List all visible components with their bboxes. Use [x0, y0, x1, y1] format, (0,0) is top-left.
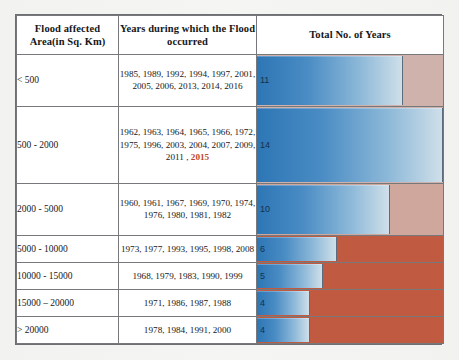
years-line: 2011 ,	[166, 152, 191, 162]
column-header-area-line2: Area(in Sq. Km)	[30, 36, 106, 47]
bar-value-label: 10	[260, 205, 270, 214]
cell-area: 500 - 2000	[17, 106, 119, 183]
column-header-area-line1: Flood affected	[35, 23, 100, 34]
years-line: 1962, 1963, 1964, 1965, 1966, 1972,	[120, 127, 256, 137]
bar-fill	[257, 56, 403, 105]
cell-area: < 500	[17, 55, 119, 107]
cell-area: > 20000	[17, 316, 119, 343]
bar-value-label: 14	[260, 140, 270, 149]
cell-area: 5000 - 10000	[17, 235, 119, 262]
highlighted-year: 2015	[191, 152, 209, 162]
table-header: Flood affected Area(in Sq. Km) Years dur…	[17, 16, 444, 55]
years-line: 1976, 1980, 1981, 1982	[144, 210, 231, 220]
bar-fill	[257, 237, 337, 261]
bar-value-label: 6	[260, 244, 265, 253]
column-header-years: Years during which the Flood occurred	[119, 16, 257, 55]
flood-statistics-table: Flood affected Area(in Sq. Km) Years dur…	[15, 14, 442, 345]
cell-total-bar: 14	[257, 106, 444, 183]
bar-value-label: 4	[260, 298, 265, 307]
bar-remainder	[337, 237, 443, 261]
table-row: 10000 - 150001968, 1979, 1983, 1990, 199…	[17, 262, 444, 289]
table-row: 15000 – 200001971, 1986, 1987, 19884	[17, 289, 444, 316]
bar-remainder	[403, 56, 443, 105]
bar-remainder	[390, 185, 443, 234]
column-header-years-line1: Years during which the Flood	[120, 23, 255, 34]
bar-fill	[257, 185, 390, 234]
cell-total-bar: 4	[257, 289, 444, 316]
cell-area: 2000 - 5000	[17, 183, 119, 235]
years-line: 1978, 1984, 1991, 2000	[144, 325, 231, 335]
years-line: 2005, 2006, 2013, 2014, 2016	[132, 81, 242, 91]
bar-remainder	[310, 318, 443, 342]
column-header-area: Flood affected Area(in Sq. Km)	[17, 16, 119, 55]
cell-total-bar: 5	[257, 262, 444, 289]
column-header-years-line2: occurred	[167, 36, 208, 47]
cell-total-bar: 11	[257, 55, 444, 107]
cell-total-bar: 10	[257, 183, 444, 235]
cell-area: 15000 – 20000	[17, 289, 119, 316]
bar-value-label: 4	[260, 325, 265, 334]
years-line: 1960, 1961, 1967, 1969, 1970, 1974,	[120, 198, 256, 208]
bar-fill	[257, 108, 443, 182]
table-body: < 5001985, 1989, 1992, 1994, 1997, 2001,…	[17, 55, 444, 344]
cell-total-bar: 4	[257, 316, 444, 343]
table-row: 2000 - 50001960, 1961, 1967, 1969, 1970,…	[17, 183, 444, 235]
years-line: 1971, 1986, 1987, 1988	[144, 298, 231, 308]
table-row: > 200001978, 1984, 1991, 20004	[17, 316, 444, 343]
bar-remainder	[323, 264, 443, 288]
cell-years: 1978, 1984, 1991, 2000	[119, 316, 257, 343]
bar-value-label: 5	[260, 271, 265, 280]
cell-years: 1968, 1979, 1983, 1990, 1999	[119, 262, 257, 289]
cell-years: 1985, 1989, 1992, 1994, 1997, 2001,2005,…	[119, 55, 257, 107]
years-line: 1968, 1979, 1983, 1990, 1999	[132, 271, 242, 281]
cell-years: 1960, 1961, 1967, 1969, 1970, 1974,1976,…	[119, 183, 257, 235]
years-line: 1973, 1977, 1993, 1995, 1998, 2008	[121, 244, 254, 254]
table-row: < 5001985, 1989, 1992, 1994, 1997, 2001,…	[17, 55, 444, 107]
years-line: 1975, 1996, 2003, 2004, 2007, 2009,	[120, 140, 256, 150]
flood-table: Flood affected Area(in Sq. Km) Years dur…	[16, 15, 444, 344]
years-line: 1985, 1989, 1992, 1994, 1997, 2001,	[120, 69, 256, 79]
cell-years: 1962, 1963, 1964, 1965, 1966, 1972,1975,…	[119, 106, 257, 183]
header-row: Flood affected Area(in Sq. Km) Years dur…	[17, 16, 444, 55]
bar-fill	[257, 264, 323, 288]
cell-total-bar: 6	[257, 235, 444, 262]
column-header-total: Total No. of Years	[257, 16, 444, 55]
table-row: 500 - 20001962, 1963, 1964, 1965, 1966, …	[17, 106, 444, 183]
table-row: 5000 - 100001973, 1977, 1993, 1995, 1998…	[17, 235, 444, 262]
bar-value-label: 11	[260, 76, 269, 85]
cell-years: 1971, 1986, 1987, 1988	[119, 289, 257, 316]
bar-remainder	[310, 291, 443, 315]
cell-years: 1973, 1977, 1993, 1995, 1998, 2008	[119, 235, 257, 262]
cell-area: 10000 - 15000	[17, 262, 119, 289]
